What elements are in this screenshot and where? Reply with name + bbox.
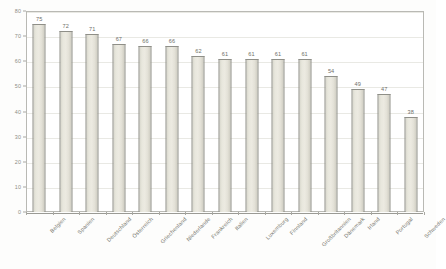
x-axis-tick-label: Belgien bbox=[49, 216, 67, 234]
bar bbox=[378, 94, 391, 212]
x-axis-tick-mark bbox=[424, 212, 425, 215]
bar-value-label: 61 bbox=[248, 51, 254, 57]
x-axis-tick-mark bbox=[212, 212, 213, 215]
bar-value-label: 75 bbox=[36, 16, 42, 22]
x-axis-tick-mark bbox=[26, 212, 27, 215]
bar-value-label: 54 bbox=[328, 68, 334, 74]
y-axis-tick-label: 50 bbox=[15, 83, 21, 89]
x-axis-tick-mark bbox=[371, 212, 372, 215]
y-axis-tick-label: 30 bbox=[15, 134, 21, 140]
x-axis-tick-label: Niederlande bbox=[185, 216, 211, 242]
x-axis-tick-mark bbox=[159, 212, 160, 215]
bar-group: 66 bbox=[159, 11, 186, 212]
x-axis-tick-mark bbox=[291, 212, 292, 215]
x-axis-tick-mark bbox=[106, 212, 107, 215]
bar bbox=[218, 59, 231, 212]
bar-value-label: 67 bbox=[116, 36, 122, 42]
bar-group: 38 bbox=[397, 11, 424, 212]
bar-group: 72 bbox=[53, 11, 80, 212]
bar-value-label: 61 bbox=[222, 51, 228, 57]
x-axis-tick-mark bbox=[185, 212, 186, 215]
x-axis-tick-label: Finnland bbox=[289, 216, 309, 236]
y-axis: 01020304050607080 bbox=[0, 11, 26, 212]
bar-group: 61 bbox=[265, 11, 292, 212]
x-axis-tick-mark bbox=[132, 212, 133, 215]
x-axis-tick-label: Luxemburg bbox=[264, 216, 289, 241]
x-axis-tick-label: Deutschland bbox=[106, 216, 133, 243]
bar-group: 54 bbox=[318, 11, 345, 212]
x-axis-tick-mark bbox=[344, 212, 345, 215]
bar bbox=[192, 56, 205, 212]
bar-group: 67 bbox=[106, 11, 133, 212]
x-axis-tick-mark bbox=[397, 212, 398, 215]
bar-value-label: 61 bbox=[301, 51, 307, 57]
bar bbox=[351, 89, 364, 212]
bar-value-label: 66 bbox=[169, 38, 175, 44]
bar-value-label: 47 bbox=[381, 86, 387, 92]
bar-group: 61 bbox=[238, 11, 265, 212]
bar bbox=[59, 31, 72, 212]
x-axis-tick-mark bbox=[53, 212, 54, 215]
bar-group: 47 bbox=[371, 11, 398, 212]
y-axis-tick-label: 20 bbox=[15, 159, 21, 165]
bar-value-label: 61 bbox=[275, 51, 281, 57]
y-axis-tick-label: 70 bbox=[15, 33, 21, 39]
bars-layer: 757271676666626161616154494738 bbox=[26, 11, 424, 212]
bar bbox=[404, 117, 417, 212]
bar-value-label: 49 bbox=[354, 81, 360, 87]
x-axis-tick-label: Österreich bbox=[131, 216, 154, 239]
bar-value-label: 62 bbox=[195, 48, 201, 54]
y-axis-tick-label: 80 bbox=[15, 8, 21, 14]
x-axis-tick-label: Italien bbox=[234, 216, 249, 231]
y-axis-tick-label: 40 bbox=[15, 109, 21, 115]
bar-group: 62 bbox=[185, 11, 212, 212]
bar-value-label: 38 bbox=[408, 109, 414, 115]
bar-value-label: 66 bbox=[142, 38, 148, 44]
bar-group: 61 bbox=[291, 11, 318, 212]
bar-group: 61 bbox=[212, 11, 239, 212]
bar bbox=[33, 24, 46, 212]
x-axis-tick-mark bbox=[238, 212, 239, 215]
x-axis-tick-label: Schweden bbox=[423, 216, 446, 239]
bar bbox=[298, 59, 311, 212]
bar bbox=[325, 76, 338, 212]
x-axis-tick-mark bbox=[79, 212, 80, 215]
bar bbox=[245, 59, 258, 212]
x-axis: BelgienSpanienDeutschlandÖsterreichGriec… bbox=[26, 216, 424, 269]
bar bbox=[86, 34, 99, 212]
x-axis-tick-label: Spanien bbox=[76, 216, 95, 235]
x-axis-tick-label: Griechenland bbox=[160, 216, 189, 245]
bar-value-label: 72 bbox=[63, 23, 69, 29]
y-axis-tick-label: 10 bbox=[15, 184, 21, 190]
bar-group: 71 bbox=[79, 11, 106, 212]
x-axis-tick-label: Portugal bbox=[395, 216, 415, 236]
y-axis-tick-label: 60 bbox=[15, 58, 21, 64]
bar-group: 49 bbox=[344, 11, 371, 212]
bar-group: 66 bbox=[132, 11, 159, 212]
bar bbox=[272, 59, 285, 212]
x-axis-tick-label: Frankreich bbox=[211, 216, 235, 240]
bar-value-label: 71 bbox=[89, 26, 95, 32]
bar-group: 75 bbox=[26, 11, 53, 212]
x-axis-tick-mark bbox=[265, 212, 266, 215]
bar bbox=[112, 44, 125, 212]
y-axis-tick-label: 0 bbox=[18, 209, 21, 215]
x-axis-tick-label: Irland bbox=[366, 216, 381, 231]
bar bbox=[165, 46, 178, 212]
x-axis-tick-mark bbox=[318, 212, 319, 215]
bar bbox=[139, 46, 152, 212]
